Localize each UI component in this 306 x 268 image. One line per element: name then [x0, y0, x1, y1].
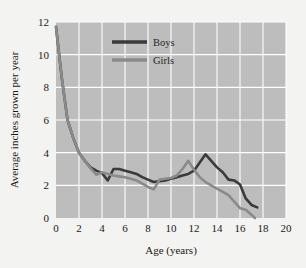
x-tick-label: 4 — [99, 222, 105, 234]
x-axis-title: Age (years) — [145, 244, 197, 257]
y-tick-label: 6 — [44, 114, 50, 126]
y-tick-label: 4 — [44, 147, 50, 159]
x-tick-label: 0 — [53, 222, 59, 234]
legend-label-boys: Boys — [153, 37, 175, 48]
y-tick-label: 10 — [38, 49, 50, 61]
y-tick-label: 0 — [44, 212, 50, 224]
x-tick-label: 12 — [189, 222, 200, 234]
x-tick-label: 18 — [258, 222, 270, 234]
y-tick-label: 12 — [38, 16, 49, 28]
x-tick-label: 16 — [235, 222, 247, 234]
chart-svg: 02468101214161820 024681012 Age (years) … — [0, 0, 306, 268]
x-tick-label: 8 — [145, 222, 151, 234]
x-tick-label: 10 — [166, 222, 178, 234]
y-axis-title: Average inches grown per year — [8, 51, 20, 188]
x-tick-label: 6 — [122, 222, 128, 234]
x-tick-label: 2 — [76, 222, 82, 234]
growth-chart-figure: 02468101214161820 024681012 Age (years) … — [0, 0, 306, 268]
y-tick-label: 2 — [44, 179, 50, 191]
legend-label-girls: Girls — [153, 55, 174, 66]
x-tick-label: 20 — [281, 222, 293, 234]
y-tick-label: 8 — [44, 81, 50, 93]
x-tick-label: 14 — [212, 222, 224, 234]
